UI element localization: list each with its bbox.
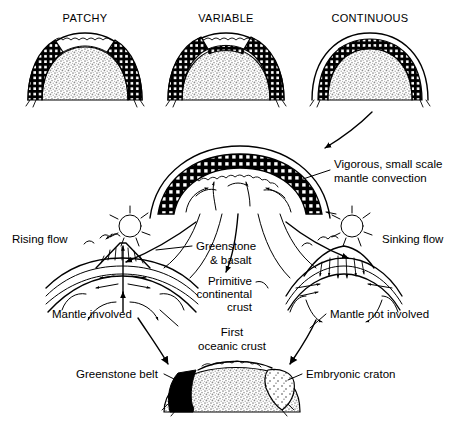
globe-variable bbox=[166, 33, 286, 107]
leader-primitive-crust bbox=[256, 281, 268, 288]
arrow-dome-to-sinking bbox=[286, 222, 348, 258]
label-first-oceanic-crust-line2: oceanic crust bbox=[198, 340, 267, 352]
label-embryonic-craton: Embryonic craton bbox=[306, 368, 395, 380]
label-vigorous-convection-line2: mantle convection bbox=[334, 172, 427, 184]
label-vigorous-convection-line1: Vigorous, small scale bbox=[334, 158, 442, 170]
label-greenstone-belt: Greenstone belt bbox=[76, 368, 159, 380]
arrow-continuous-to-dome bbox=[325, 112, 372, 148]
label-greenstone-basalt-line1: Greenstone bbox=[196, 240, 256, 252]
label-mantle-involved: Mantle involved bbox=[52, 308, 132, 320]
label-rising-flow: Rising flow bbox=[12, 233, 68, 245]
globe-continuous bbox=[310, 33, 430, 107]
label-mantle-not-involved: Mantle not involved bbox=[330, 308, 429, 320]
leader-mantle-not-involved bbox=[310, 314, 326, 328]
leader-vigorous-convection bbox=[300, 170, 330, 180]
leader-greenstone-basalt bbox=[156, 246, 192, 250]
label-primitive-crust-line1: Primitive bbox=[208, 275, 252, 287]
arrow-to-embryonic-craton bbox=[290, 320, 316, 364]
globe-label-variable: VARIABLE bbox=[198, 12, 253, 24]
leader-greenstone-belt bbox=[164, 374, 176, 380]
sinking-flow-panel bbox=[286, 206, 402, 322]
earth-evolution-diagram: PATCHY VARIABLE CONTINUOUS bbox=[0, 0, 452, 422]
globe-label-continuous: CONTINUOUS bbox=[332, 12, 409, 24]
rising-flow-panel bbox=[46, 206, 198, 320]
label-first-oceanic-crust-line1: First bbox=[221, 326, 244, 338]
globe-label-patchy: PATCHY bbox=[63, 12, 108, 24]
arrow-to-greenstone-belt bbox=[138, 318, 168, 364]
leader-mantle-involved bbox=[160, 310, 178, 326]
arrow-dome-to-rising bbox=[126, 222, 196, 262]
label-primitive-crust-line3: crust bbox=[227, 301, 253, 313]
globe-patchy bbox=[26, 33, 144, 107]
diagram-canvas: PATCHY VARIABLE CONTINUOUS bbox=[0, 0, 452, 422]
label-primitive-crust-line2: continental bbox=[196, 288, 252, 300]
label-greenstone-basalt-line2: & basalt bbox=[210, 254, 252, 266]
label-sinking-flow: Sinking flow bbox=[382, 233, 444, 245]
embryonic-craton-panel bbox=[162, 361, 300, 416]
